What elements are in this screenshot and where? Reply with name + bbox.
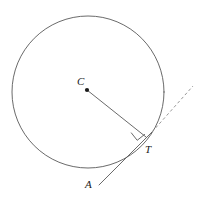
- geometry-figure: C T A: [0, 0, 206, 205]
- tangent-extension-dashed: [152, 86, 193, 132]
- tangent-segment-at: [99, 132, 152, 185]
- label-center-c: C: [77, 76, 84, 87]
- right-angle-marker-icon: [131, 133, 145, 141]
- radius-segment-ct: [87, 90, 146, 137]
- geometry-canvas: [0, 0, 206, 205]
- center-point-dot: [85, 88, 89, 92]
- label-tangent-point-t: T: [145, 144, 151, 155]
- circle: [12, 16, 164, 168]
- label-point-a: A: [85, 179, 92, 190]
